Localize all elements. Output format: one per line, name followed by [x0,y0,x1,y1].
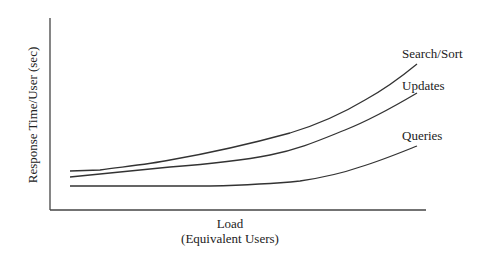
x-axis-label-line1: Load [181,216,279,231]
line-updates [70,93,417,177]
series-label-updates: Updates [402,78,445,94]
series-label-queries: Queries [402,128,442,144]
line-search-sort [70,64,417,171]
x-axis-label: Load (Equivalent Users) [181,216,279,246]
y-axis-label: Response Time/User (sec) [25,47,41,184]
series-label-search-sort: Search/Sort [402,46,463,62]
x-axis-label-line2: (Equivalent Users) [181,231,279,246]
line-queries [70,146,417,186]
